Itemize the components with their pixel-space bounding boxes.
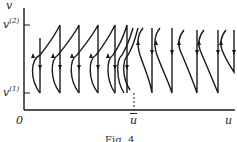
v2-superscript: (2)	[9, 17, 19, 25]
v2-label: v(2)	[3, 18, 19, 30]
phase-diagram	[0, 0, 237, 142]
origin-label: 0	[16, 115, 23, 126]
v1-superscript: (1)	[9, 85, 19, 93]
v1-label: v(1)	[3, 86, 19, 98]
x-axis-label: u	[225, 115, 232, 126]
figure-caption: Fig. 4	[105, 134, 134, 142]
y-axis-label: v	[6, 0, 12, 11]
trajectory-curves-left	[33, 25, 139, 93]
trajectory-curves-right	[138, 28, 234, 93]
ubar-label: u	[130, 115, 137, 126]
